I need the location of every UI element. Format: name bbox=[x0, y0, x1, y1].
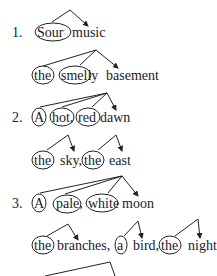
word: east bbox=[109, 153, 131, 168]
word: bird, bbox=[133, 238, 159, 253]
word: A bbox=[34, 110, 45, 125]
word: the bbox=[34, 68, 51, 83]
word: basement bbox=[106, 68, 159, 83]
word: the bbox=[34, 153, 51, 168]
item-number: 3. bbox=[12, 196, 23, 211]
word: the bbox=[34, 238, 51, 253]
word: a bbox=[117, 238, 124, 253]
word: red bbox=[78, 110, 96, 125]
word: pale, bbox=[56, 196, 83, 211]
word: the bbox=[84, 153, 101, 168]
word: dawn bbox=[100, 110, 130, 125]
word: smelly bbox=[61, 68, 98, 83]
item-number: 1. bbox=[12, 25, 23, 40]
word: sky, bbox=[60, 153, 82, 168]
word: A bbox=[34, 196, 45, 211]
adjective-diagram: 1. Sour music the smelly basement 2. A h… bbox=[0, 0, 217, 276]
item-number: 2. bbox=[12, 110, 23, 125]
word: moon bbox=[122, 196, 154, 211]
word: music bbox=[72, 25, 105, 40]
word: white bbox=[88, 196, 119, 211]
word: hot, bbox=[52, 110, 73, 125]
word: branches, bbox=[57, 238, 110, 253]
word: Sour bbox=[37, 25, 64, 40]
word: the bbox=[161, 238, 178, 253]
word: night bbox=[188, 238, 217, 253]
